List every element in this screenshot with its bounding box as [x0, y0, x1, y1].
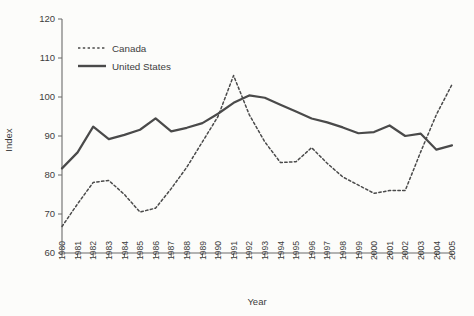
x-tick-label: 2004	[432, 241, 442, 260]
y-tick-label: 100	[39, 91, 55, 102]
x-tick-label: 1983	[104, 241, 114, 260]
y-tick-label: 80	[44, 169, 55, 180]
x-tick-label: 1996	[307, 241, 317, 260]
chart-page: 60708090100110120 1980198119821983198419…	[0, 0, 474, 316]
x-tick-label: 1985	[135, 241, 145, 260]
x-tick-label: 1991	[229, 241, 239, 260]
chart-legend: CanadaUnited States	[78, 43, 171, 72]
legend-label-canada: Canada	[112, 43, 147, 54]
y-tick-label: 120	[39, 13, 55, 24]
x-tick-label: 1981	[73, 241, 83, 260]
x-tick-label: 1987	[166, 241, 176, 260]
x-axis-ticks: 1980198119821983198419851986198719881989…	[57, 241, 457, 260]
x-tick-label: 2005	[447, 241, 457, 260]
series-layer	[62, 76, 452, 227]
y-tick-label: 90	[44, 130, 55, 141]
x-tick-label: 1998	[338, 241, 348, 260]
series-line-canada	[62, 76, 452, 227]
x-tick-label: 2002	[400, 241, 410, 260]
x-tick-label: 2003	[416, 241, 426, 260]
x-tick-label: 1990	[213, 241, 223, 260]
legend-label-united-states: United States	[112, 61, 171, 72]
x-tick-label: 1982	[88, 241, 98, 260]
x-tick-label: 1997	[322, 241, 332, 260]
x-tick-label: 1986	[151, 241, 161, 260]
y-tick-label: 110	[40, 52, 55, 63]
y-tick-label: 60	[44, 247, 55, 258]
y-axis-ticks: 60708090100110120	[39, 13, 62, 258]
x-tick-label: 1988	[182, 241, 192, 260]
x-tick-label: 2000	[369, 241, 379, 260]
x-tick-label: 1995	[291, 241, 301, 260]
x-tick-label: 1993	[260, 241, 270, 260]
x-tick-label: 1994	[276, 241, 286, 260]
x-tick-label: 2001	[385, 241, 395, 260]
x-tick-label: 1992	[244, 241, 254, 260]
x-axis-title: Year	[247, 296, 266, 307]
y-axis-title: Index	[3, 128, 14, 151]
x-tick-label: 1989	[198, 241, 208, 260]
y-tick-label: 70	[44, 208, 55, 219]
x-tick-label: 1984	[120, 241, 130, 260]
line-chart: 60708090100110120 1980198119821983198419…	[0, 0, 474, 316]
x-tick-label: 1999	[354, 241, 364, 260]
series-line-united-states	[62, 95, 452, 168]
